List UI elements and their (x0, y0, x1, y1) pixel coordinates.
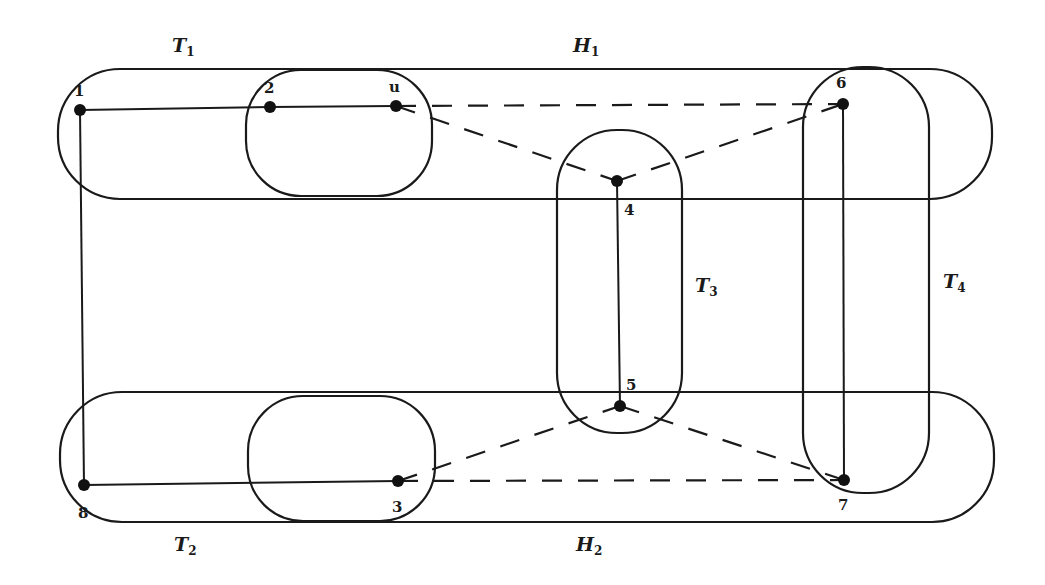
node-6 (837, 98, 849, 110)
node-label-5: 5 (626, 376, 636, 394)
edge-2-u (270, 106, 396, 107)
edge-1-8 (80, 110, 84, 485)
node-1 (74, 104, 86, 116)
region-t2-inner (248, 396, 435, 521)
node-label-2: 2 (264, 79, 274, 97)
node-label-1: 1 (74, 82, 84, 100)
node-label-3: 3 (392, 498, 402, 516)
edge-1-2 (80, 107, 270, 110)
edge-4-5 (617, 181, 620, 406)
node-u (390, 100, 402, 112)
edge-dashed-5-7 (620, 406, 844, 480)
edge-dashed-3-7 (398, 480, 844, 481)
hypergraph-diagram: 1 2 u 4 5 6 7 3 8 T1 H1 T3 T4 T2 H2 (0, 0, 1045, 585)
edge-6-7 (843, 104, 844, 480)
node-8 (78, 479, 90, 491)
node-5 (614, 400, 626, 412)
set-label-t2: T2 (174, 533, 197, 558)
edge-dashed-u-6 (396, 104, 843, 106)
node-label-8: 8 (78, 504, 88, 522)
set-label-h2: H2 (575, 533, 602, 558)
node-label-4: 4 (624, 201, 634, 219)
edge-dashed-3-5 (398, 406, 620, 481)
node-2 (264, 101, 276, 113)
edge-8-3 (84, 481, 398, 485)
set-label-t3: T3 (695, 274, 718, 299)
node-7 (838, 474, 850, 486)
region-h1 (58, 69, 992, 199)
region-t4 (803, 67, 929, 493)
set-label-h1: H1 (572, 34, 599, 59)
node-3 (392, 475, 404, 487)
set-label-t4: T4 (943, 270, 966, 295)
edge-dashed-u-4 (396, 106, 617, 181)
edge-dashed-4-6 (617, 104, 843, 181)
node-label-6: 6 (836, 74, 846, 92)
node-4 (611, 175, 623, 187)
region-h2 (60, 392, 994, 522)
node-label-7: 7 (838, 496, 848, 514)
set-label-t1: T1 (172, 34, 195, 59)
node-label-u: u (389, 78, 400, 96)
